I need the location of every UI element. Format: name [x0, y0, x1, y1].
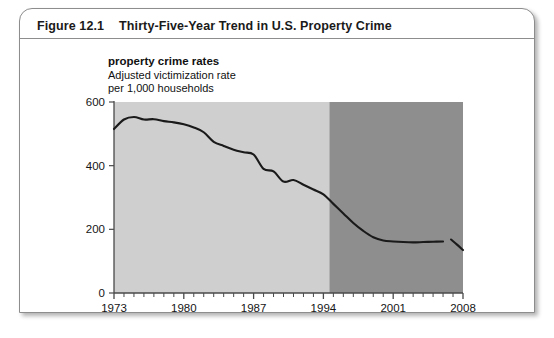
x-tick-label: 1994	[311, 302, 337, 314]
y-tick-label: 200	[86, 223, 105, 235]
chart-container: property crime rates Adjusted victimizat…	[20, 9, 536, 314]
x-tick-label: 1973	[101, 302, 127, 314]
figure-card: Figure 12.1Thirty-Five-Year Trend in U.S…	[19, 8, 535, 313]
late-period-band	[329, 102, 463, 293]
x-tick-label: 1980	[171, 302, 197, 314]
x-tick-label: 2001	[380, 302, 406, 314]
x-tick-label: 1987	[241, 302, 267, 314]
plot-bands	[114, 102, 463, 293]
line-chart: 0200400600197319801987199420012008	[20, 9, 536, 314]
y-tick-label: 0	[99, 287, 105, 299]
y-tick-label: 400	[86, 160, 105, 172]
y-tick-label: 600	[86, 96, 105, 108]
early-period-band	[114, 102, 329, 293]
x-tick-label: 2008	[450, 302, 476, 314]
